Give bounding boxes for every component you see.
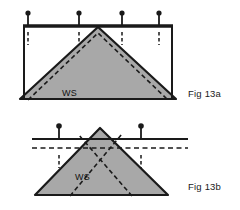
ws-label-13a: WS xyxy=(62,88,77,98)
ws-label-13b: WS xyxy=(75,172,90,182)
figure-caption-13b: Fig 13b xyxy=(188,181,221,192)
figure-sheet: WS Fig 13a xyxy=(0,0,240,210)
figure-caption-13a: Fig 13a xyxy=(188,88,222,99)
